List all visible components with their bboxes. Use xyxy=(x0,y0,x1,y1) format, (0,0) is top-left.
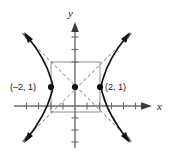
left-vertex-label: (–2, 1) xyxy=(10,82,36,92)
x-axis-label: x xyxy=(156,100,162,112)
vertex-dot-right[interactable] xyxy=(97,84,103,90)
x-axis-arrowhead xyxy=(141,102,152,110)
vertex-dot-left[interactable] xyxy=(48,84,54,90)
hyperbola-figure: (–2, 1) (2, 1) y x xyxy=(0,0,169,160)
right-vertex-label: (2, 1) xyxy=(105,82,126,92)
graph-canvas: (–2, 1) (2, 1) y x xyxy=(0,0,169,160)
center-dot[interactable] xyxy=(72,84,78,90)
y-axis-arrowhead xyxy=(71,22,79,32)
y-axis-label: y xyxy=(67,7,73,19)
